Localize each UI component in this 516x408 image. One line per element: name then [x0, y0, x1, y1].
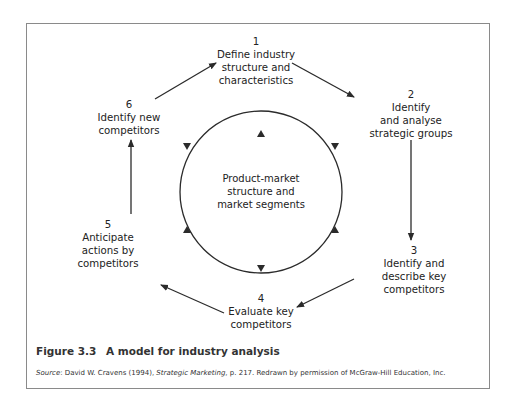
arrow-4-to-5	[161, 285, 224, 313]
node-line: characteristics	[217, 74, 295, 87]
node-number: 5	[77, 218, 138, 231]
node-line: Identify	[369, 101, 452, 114]
figure-caption: Figure 3.3 A model for industry analysis	[36, 345, 280, 357]
node-line: Identify new	[98, 111, 161, 124]
node-line: Define industry	[217, 48, 295, 61]
node-line: describe key	[382, 270, 446, 283]
node-line: competitors	[98, 124, 161, 137]
source-author: : David W. Cravens (1994),	[60, 369, 156, 377]
node-number: 3	[382, 244, 446, 257]
figure-title: A model for industry analysis	[106, 345, 280, 357]
node-line: competitors	[77, 257, 138, 270]
source-work: Strategic Marketing	[156, 369, 225, 377]
node-number: 1	[217, 35, 295, 48]
node-4: 4 Evaluate key competitors	[228, 292, 294, 331]
center-label: Product-market structure and market segm…	[217, 172, 305, 211]
triangle-down-icon	[331, 143, 339, 150]
source-label: Source	[36, 369, 60, 377]
node-line: Identify and	[382, 257, 446, 270]
arrow-1-to-2	[292, 63, 354, 97]
node-line: and analyse	[369, 114, 452, 127]
node-line: actions by	[77, 244, 138, 257]
arrow-6-to-1	[155, 63, 216, 99]
node-line: competitors	[382, 283, 446, 296]
node-line: strategic groups	[369, 127, 452, 140]
figure-number: Figure 3.3	[36, 345, 96, 357]
node-line: Evaluate key	[228, 305, 294, 318]
node-number: 6	[98, 98, 161, 111]
node-2: 2 Identify and analyse strategic groups	[369, 88, 452, 140]
node-line: competitors	[228, 318, 294, 331]
arrow-3-to-4	[297, 279, 354, 307]
triangle-down-icon	[183, 143, 191, 150]
node-1: 1 Define industry structure and characte…	[217, 35, 295, 87]
center-line: structure and	[217, 185, 305, 198]
triangle-down-icon	[257, 265, 265, 272]
source-rest: , p. 217. Redrawn by permission of McGra…	[225, 369, 445, 377]
source-note: Source: David W. Cravens (1994), Strateg…	[36, 369, 446, 377]
node-number: 2	[369, 88, 452, 101]
node-3: 3 Identify and describe key competitors	[382, 244, 446, 296]
center-line: market segments	[217, 198, 305, 211]
node-number: 4	[228, 292, 294, 305]
node-5: 5 Anticipate actions by competitors	[77, 218, 138, 270]
triangle-up-icon	[257, 130, 265, 137]
node-line: structure and	[217, 61, 295, 74]
node-6: 6 Identify new competitors	[98, 98, 161, 137]
center-line: Product-market	[217, 172, 305, 185]
node-line: Anticipate	[77, 231, 138, 244]
